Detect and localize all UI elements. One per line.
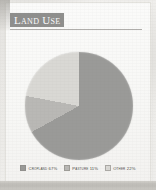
legend-item-other: Other 22%	[105, 165, 135, 171]
page-title: Land Use	[14, 15, 60, 26]
legend-item-cropland: Cropland 67%	[20, 165, 57, 171]
scan-artifact	[0, 0, 10, 30]
land-use-infographic-panel: Land Use Cropland 67% Pasture 11% Other …	[0, 0, 156, 190]
pie-chart	[6, 33, 150, 163]
legend-swatch-other	[105, 165, 111, 171]
legend-label-other: Other 22%	[113, 166, 135, 171]
legend-label-pasture: Pasture 11%	[72, 166, 98, 171]
pie-disc	[25, 52, 133, 160]
legend-swatch-cropland	[20, 165, 26, 171]
legend-swatch-pasture	[64, 165, 70, 171]
legend-item-pasture: Pasture 11%	[64, 165, 98, 171]
legend-label-cropland: Cropland 67%	[28, 166, 57, 171]
chart-legend: Cropland 67% Pasture 11% Other 22%	[6, 165, 150, 171]
bottom-band	[0, 181, 156, 190]
panel-title-banner: Land Use	[10, 13, 64, 27]
title-divider	[10, 29, 142, 30]
